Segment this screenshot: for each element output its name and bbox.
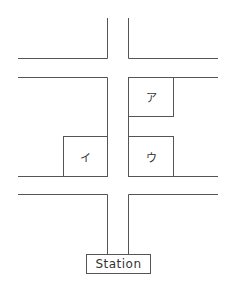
station-box: Station xyxy=(86,254,151,274)
block-a-label: ア xyxy=(128,89,174,105)
block-i-label: イ xyxy=(63,149,108,165)
block-u-label: ウ xyxy=(128,149,174,165)
street-map xyxy=(0,0,228,288)
